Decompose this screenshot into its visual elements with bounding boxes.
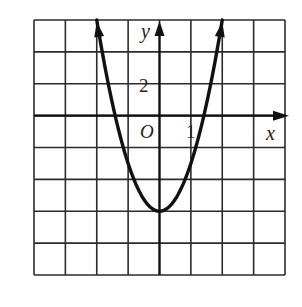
y-axis-label: y — [139, 20, 150, 43]
x-axis-label: x — [265, 122, 275, 144]
origin-label: O — [140, 121, 154, 142]
y-tick-label-2: 2 — [139, 75, 149, 96]
x-tick-label-1: 1 — [186, 121, 196, 142]
parabola-graph: y x O 2 1 — [0, 0, 302, 307]
